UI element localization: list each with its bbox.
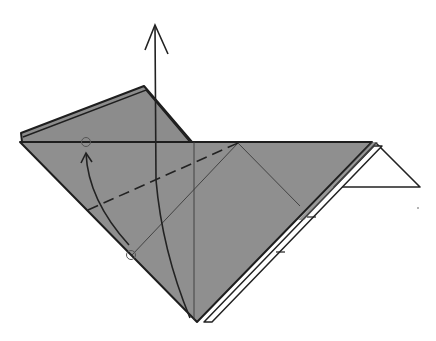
main-body: [20, 142, 378, 322]
speck-dot: [417, 207, 419, 209]
top-flap: [21, 86, 192, 142]
origami-diagram: [0, 0, 436, 341]
